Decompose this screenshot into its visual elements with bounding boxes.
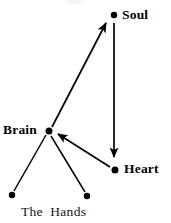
group-label-the-hands: The Hands	[21, 205, 86, 219]
diagram-canvas: Soul Brain Heart The Hands	[0, 0, 171, 223]
edge-brain-to-hand-left	[14, 135, 46, 191]
node-heart-dot[interactable]	[112, 167, 119, 174]
node-brain-dot[interactable]	[46, 128, 53, 135]
node-label-heart: Heart	[124, 162, 159, 176]
diagram-graph	[0, 0, 171, 223]
edge-brain-to-hand-right	[51, 136, 85, 192]
node-soul-dot[interactable]	[111, 12, 117, 18]
edge-heart-to-brain	[58, 134, 110, 167]
node-hand-left-dot[interactable]	[9, 192, 15, 198]
node-hand-right-dot[interactable]	[84, 193, 90, 199]
node-label-brain: Brain	[3, 123, 37, 137]
node-label-soul: Soul	[122, 8, 148, 22]
edge-group	[14, 23, 114, 192]
edge-brain-to-soul	[52, 23, 106, 127]
